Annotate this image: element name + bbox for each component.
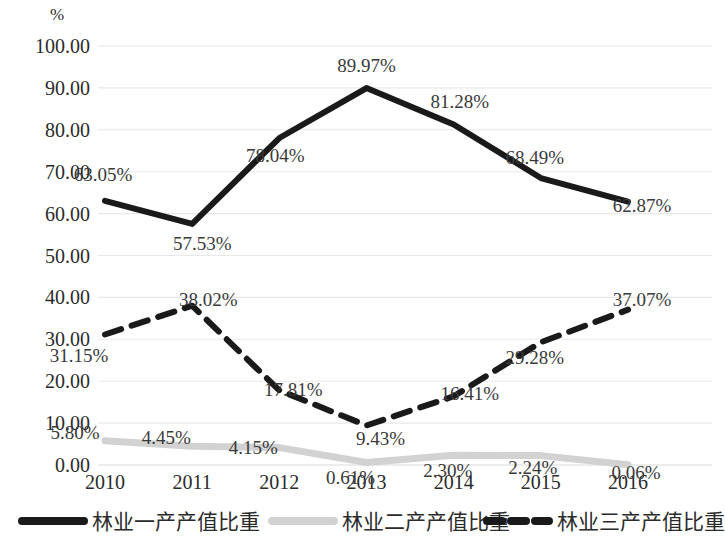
y-axis-tick-label: 100.00	[35, 35, 90, 57]
y-axis-tick-label: 40.00	[45, 286, 90, 308]
data-point-label: 68.49%	[506, 147, 565, 168]
data-point-label: 63.05%	[74, 164, 133, 185]
data-point-label: 9.43%	[356, 428, 405, 449]
y-axis-tick-label: 20.00	[45, 370, 90, 392]
data-point-label: 5.80%	[50, 422, 99, 443]
data-point-label: 0.06%	[611, 462, 660, 483]
legend-label: 林业一产产值比重	[92, 510, 260, 534]
y-axis-tick-label: 50.00	[45, 245, 90, 267]
data-point-label: 89.97%	[337, 55, 396, 76]
series-lines-group	[105, 88, 628, 465]
data-point-label: 37.07%	[613, 289, 672, 310]
gridlines-group	[98, 46, 712, 465]
y-axis-tick-label: 90.00	[45, 77, 90, 99]
data-point-label: 16.41%	[440, 383, 499, 404]
x-axis-tick-label: 2012	[259, 471, 299, 493]
x-axis-tick-label: 2010	[85, 471, 125, 493]
data-point-label: 4.15%	[229, 437, 278, 458]
y-axis-tick-label: 80.00	[45, 119, 90, 141]
data-point-label: 62.87%	[613, 195, 672, 216]
chart-canvas: 100.0090.0080.0070.0060.0050.0040.0030.0…	[0, 0, 725, 539]
forestry-output-value-share-line-chart: 100.0090.0080.0070.0060.0050.0040.0030.0…	[0, 0, 725, 539]
data-point-label: 81.28%	[430, 91, 489, 112]
data-point-label: 31.15%	[50, 345, 109, 366]
data-point-label: 2.30%	[423, 460, 472, 481]
data-point-label: 78.04%	[246, 145, 305, 166]
data-point-label: 4.45%	[142, 427, 191, 448]
data-point-label: 38.02%	[179, 289, 238, 310]
y-axis-tick-label: 60.00	[45, 203, 90, 225]
data-point-label: 2.24%	[508, 457, 557, 478]
data-point-label: 29.28%	[506, 347, 565, 368]
legend: 林业一产产值比重林业二产产值比重林业三产产值比重	[22, 510, 725, 534]
legend-label: 林业三产产值比重	[557, 510, 725, 534]
y-axis-unit-label: %	[50, 5, 64, 24]
y-axis-tick-labels: 100.0090.0080.0070.0060.0050.0040.0030.0…	[35, 35, 90, 476]
data-point-label: 17.81%	[264, 379, 323, 400]
data-point-label: 57.53%	[173, 233, 232, 254]
data-point-label: 0.61%	[326, 467, 375, 488]
x-axis-tick-label: 2011	[173, 471, 212, 493]
